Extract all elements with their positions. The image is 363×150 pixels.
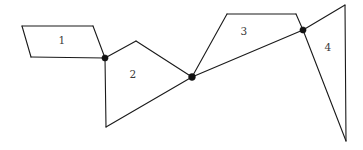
region-2-left-edge	[105, 58, 106, 127]
region-4-area	[303, 5, 346, 141]
region-2-upper-right-edge	[136, 41, 192, 77]
region-label-2: 2	[130, 68, 137, 80]
region-2-upper-left-edge	[105, 41, 136, 58]
region-label-4: 4	[325, 41, 332, 53]
region-3-left-edge	[192, 14, 227, 77]
vertex-node-left	[102, 55, 108, 61]
region-fill-group	[22, 5, 346, 141]
region-3-area	[192, 14, 303, 77]
region-1-right-edge	[93, 26, 105, 58]
region-4-right-edge	[345, 5, 346, 141]
region-1-left-edge	[22, 26, 31, 57]
vertex-node-center	[189, 74, 196, 81]
vertex-node-right	[300, 27, 306, 33]
edge-group	[22, 5, 346, 141]
polygon-diagram-svg: 1 2 3 4	[0, 0, 363, 150]
region-4-top-edge	[303, 5, 345, 30]
region-1-bottom-edge	[31, 57, 105, 58]
region-label-3: 3	[241, 25, 248, 37]
region-label-1: 1	[59, 34, 66, 46]
diagram-canvas: 1 2 3 4	[0, 0, 363, 150]
